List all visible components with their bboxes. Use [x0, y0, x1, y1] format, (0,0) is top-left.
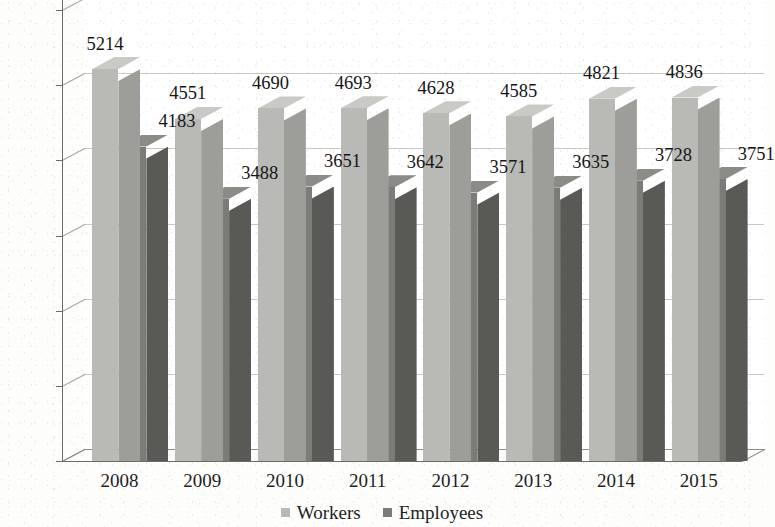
floor-left-depth-edge: [62, 449, 85, 462]
gridline: [84, 73, 764, 74]
bar-side-face: [146, 147, 168, 461]
legend-swatch-employees: [383, 508, 392, 517]
bar-value-label: 4551: [169, 84, 206, 103]
bar-side-face: [726, 179, 748, 461]
x-axis-line: [62, 461, 742, 462]
bar-value-label: 4628: [417, 79, 454, 98]
x-axis-tick-label: 2015: [658, 471, 740, 490]
bar-front-face: [92, 69, 118, 461]
bar-side-face: [201, 119, 223, 461]
plot-area: 0100020003000400050006000 52144183455134…: [62, 10, 764, 461]
bar-value-label: 3651: [324, 152, 361, 171]
bar-workers-2008[interactable]: [92, 69, 118, 461]
x-axis-tick-label: 2009: [161, 471, 243, 490]
y-tick-connector: [62, 223, 85, 236]
y-axis-line: [62, 0, 63, 461]
bar-side-face: [229, 199, 251, 461]
x-axis-tick-label: 2014: [575, 471, 657, 490]
y-tick-connector: [62, 148, 85, 161]
bar-side-face: [615, 99, 637, 461]
bar-front-face: [175, 119, 201, 461]
bar-value-label: 3571: [489, 158, 526, 177]
bar-side-face: [312, 187, 334, 461]
bar-value-label: 3635: [572, 153, 609, 172]
bar-value-label: 3642: [407, 153, 444, 172]
bar-value-label: 4821: [583, 64, 620, 83]
bar-front-face: [258, 108, 284, 461]
y-tick-connector: [62, 374, 85, 387]
y-tick-connector: [62, 0, 85, 11]
legend-item-employees[interactable]: Employees: [383, 503, 483, 522]
bar-value-label: 4585: [500, 82, 537, 101]
bar-value-label: 4690: [252, 74, 289, 93]
bar-side-face: [284, 108, 306, 461]
legend-swatch-workers: [281, 508, 290, 517]
bar-workers-2010[interactable]: [258, 108, 284, 461]
x-axis-tick-label: 2008: [78, 471, 160, 490]
bar-side-face: [698, 98, 720, 462]
bar-value-label: 4183: [158, 112, 195, 131]
chart-legend: Workers Employees: [0, 503, 764, 522]
bar-side-face: [477, 193, 499, 461]
bar-value-label: 5214: [86, 35, 123, 54]
legend-label-employees: Employees: [399, 503, 483, 522]
y-tick-connector: [62, 298, 85, 311]
bar-workers-2009[interactable]: [175, 119, 201, 461]
bar-side-face: [560, 188, 582, 461]
legend-label-workers: Workers: [297, 503, 361, 522]
bar-value-label: 3751: [738, 145, 775, 164]
legend-item-workers[interactable]: Workers: [281, 503, 361, 522]
bar-value-label: 4836: [666, 63, 703, 82]
bar-side-face: [395, 187, 417, 461]
y-tick-connector: [62, 73, 85, 86]
x-axis-tick-label: 2013: [492, 471, 574, 490]
bar-value-label: 3728: [655, 146, 692, 165]
bar-side-face: [532, 116, 554, 461]
bar-value-label: 4693: [335, 74, 372, 93]
x-axis-tick-label: 2010: [244, 471, 326, 490]
bar-side-face: [449, 113, 471, 461]
bar-side-face: [118, 69, 140, 461]
bar-value-label: 3488: [241, 164, 278, 183]
bar-side-face: [367, 108, 389, 461]
bar-side-face: [643, 181, 665, 461]
x-axis-tick-label: 2011: [327, 471, 409, 490]
x-axis-tick-label: 2012: [409, 471, 491, 490]
